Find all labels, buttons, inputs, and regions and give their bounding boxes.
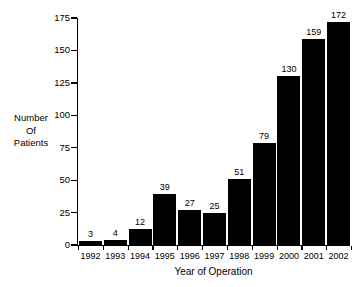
bar <box>104 240 127 245</box>
bar <box>178 210 201 245</box>
bar-value-label: 12 <box>123 217 157 227</box>
x-axis-tick-label: 2002 <box>322 251 356 262</box>
bar <box>277 76 300 245</box>
x-axis-line <box>77 245 350 246</box>
y-axis-tick <box>71 82 77 83</box>
y-axis-tick <box>71 212 77 213</box>
y-axis-tick-label: 125 <box>44 78 70 88</box>
y-axis-title-line-2: Of <box>2 125 60 138</box>
bar <box>253 143 276 245</box>
y-axis-tick-label: 150 <box>44 45 70 55</box>
bar-value-label: 130 <box>272 64 306 74</box>
y-axis-line <box>77 18 78 246</box>
x-axis-tick <box>78 246 79 250</box>
x-axis-tick <box>128 246 129 250</box>
y-axis-tick <box>71 115 77 116</box>
x-axis-tick <box>277 246 278 250</box>
x-axis-tick <box>227 246 228 250</box>
bar-chart: Number Of Patients 0255075100125150175 3… <box>0 0 359 287</box>
x-axis-tick <box>351 246 352 250</box>
bar-value-label: 25 <box>198 201 232 211</box>
x-axis-tick <box>301 246 302 250</box>
y-axis-tick-label: 100 <box>44 110 70 120</box>
y-axis-tick-label: 75 <box>44 143 70 153</box>
y-axis-tick-label: 50 <box>44 175 70 185</box>
x-axis-tick <box>202 246 203 250</box>
x-axis-tick <box>103 246 104 250</box>
y-axis-tick <box>71 180 77 181</box>
y-axis-tick-label: 175 <box>44 13 70 23</box>
y-axis-tick-label: 0 <box>44 240 70 250</box>
bar-value-label: 39 <box>148 182 182 192</box>
bar <box>327 22 350 245</box>
y-axis-tick <box>71 50 77 51</box>
bar-value-label: 4 <box>98 228 132 238</box>
y-axis-tick <box>71 17 77 18</box>
bar-value-label: 79 <box>247 131 281 141</box>
bar-value-label: 159 <box>297 27 331 37</box>
x-axis-tick <box>152 246 153 250</box>
bar-value-label: 172 <box>322 10 356 20</box>
bar <box>203 213 226 245</box>
y-axis-tick-label: 25 <box>44 208 70 218</box>
y-axis-tick <box>71 147 77 148</box>
bar <box>302 39 325 245</box>
x-axis-tick <box>177 246 178 250</box>
bar <box>79 241 102 245</box>
bar <box>129 229 152 245</box>
x-axis-tick <box>326 246 327 250</box>
y-axis-tick <box>71 244 77 245</box>
bar-value-label: 51 <box>222 167 256 177</box>
x-axis-tick <box>252 246 253 250</box>
x-axis-title: Year of Operation <box>77 266 350 277</box>
bar <box>228 179 251 245</box>
